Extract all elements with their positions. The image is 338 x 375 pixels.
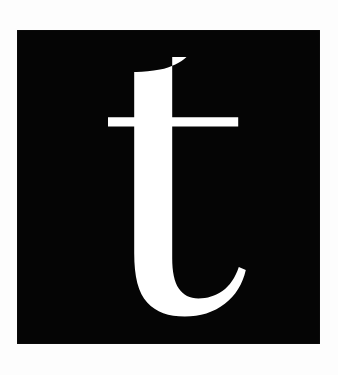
- letter-t-path: [108, 57, 246, 317]
- letter-t-glyph: [0, 0, 338, 375]
- image-canvas: [0, 0, 338, 375]
- glyph-layer: [0, 0, 338, 375]
